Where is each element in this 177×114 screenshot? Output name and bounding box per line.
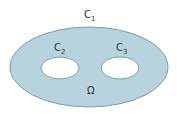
- hole-c3: [101, 57, 139, 79]
- label-omega: Ω: [87, 86, 95, 96]
- label-c1: C1: [84, 10, 95, 23]
- label-c2: C2: [54, 43, 65, 56]
- label-c3: C3: [116, 43, 127, 56]
- hole-c2: [41, 57, 79, 79]
